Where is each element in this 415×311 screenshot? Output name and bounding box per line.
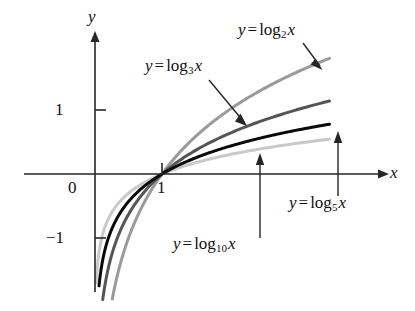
annotation-log3-base: 3 [188, 64, 194, 76]
annotation-log2: y=log2x [238, 21, 295, 38]
annotation-log2-lhs: y [238, 20, 246, 39]
annotation-log3-lhs: y [145, 56, 153, 75]
y-axis-label: y [88, 7, 96, 27]
annotation-log5-eq: = [297, 193, 311, 212]
x-axis [24, 170, 389, 179]
y-tick-label-minus1: −1 [46, 228, 64, 248]
x-axis-label: x [390, 163, 398, 183]
annotation-log10-lhs: y [173, 234, 181, 253]
annotation-log5-fn: log [310, 193, 332, 212]
annotation-log10: y=log10x [173, 235, 235, 252]
annotation-log5-base: 5 [332, 201, 338, 213]
annotation-log3-eq: = [153, 56, 167, 75]
annotation-log10-eq: = [181, 234, 195, 253]
annotation-log10-base: 10 [216, 242, 227, 254]
annotation-log2-eq: = [246, 20, 260, 39]
plot-canvas [0, 0, 415, 311]
annotation-log3-arg: x [193, 56, 202, 75]
annotation-log3: y=log3x [145, 57, 202, 74]
arrow-to-log5-curve [334, 131, 342, 196]
annotation-log3-fn: log [166, 56, 188, 75]
y-tick-label-0: 0 [68, 178, 77, 198]
annotation-log5-arg: x [337, 193, 346, 212]
annotation-log5-lhs: y [289, 193, 297, 212]
log-functions-figure: x y 1 0 −1 1 y=log2x y=log3x y=log5x y=l… [0, 0, 415, 311]
annotation-log2-base: 2 [281, 28, 287, 40]
annotation-log10-fn: log [194, 234, 216, 253]
annotation-log10-arg: x [227, 234, 236, 253]
annotation-log2-fn: log [259, 20, 281, 39]
annotation-log5: y=log5x [289, 194, 346, 211]
x-tick-label-1: 1 [157, 178, 166, 198]
annotation-log2-arg: x [286, 20, 295, 39]
arrow-to-log10-curve [256, 153, 264, 238]
y-tick-label-1: 1 [55, 100, 64, 120]
